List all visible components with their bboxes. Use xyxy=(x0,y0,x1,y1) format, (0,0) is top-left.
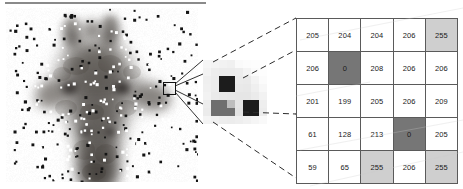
patch-pixel-4-7 xyxy=(259,92,267,100)
pixel-value-cell-4-4: 255 xyxy=(425,151,457,184)
patch-pixel-1-6 xyxy=(251,68,259,76)
pixel-value-cell-1-2: 208 xyxy=(361,52,393,85)
patch-pixel-1-2 xyxy=(219,68,227,76)
patch-pixel-2-0 xyxy=(203,76,211,84)
giraffe-photo-canvas xyxy=(6,8,198,182)
table-row: 2060208206206 xyxy=(297,52,458,85)
pixel-value-table-body: 2052042042062552060208206206201199205206… xyxy=(297,19,458,184)
pixel-value-cell-0-1: 204 xyxy=(329,19,361,52)
patch-pixel-1-4 xyxy=(235,68,243,76)
pixel-value-cell-3-2: 213 xyxy=(361,118,393,151)
patch-pixel-7-0 xyxy=(203,116,211,124)
patch-pixel-3-7 xyxy=(259,84,267,92)
patch-pixel-7-2 xyxy=(219,116,227,124)
patch-pixel-6-0 xyxy=(203,108,211,116)
patch-pixel-5-0 xyxy=(203,100,211,108)
patch-pixel-6-4 xyxy=(235,108,243,116)
pixel-value-cell-0-2: 204 xyxy=(361,19,393,52)
patch-pixel-2-1 xyxy=(211,76,219,84)
patch-pixel-4-4 xyxy=(235,92,243,100)
magnified-pixel-patch xyxy=(203,60,267,124)
pixel-value-cell-3-0: 61 xyxy=(297,118,329,151)
pixel-value-cell-3-3: 0 xyxy=(393,118,425,151)
roi-selection-box[interactable] xyxy=(163,82,176,95)
patch-pixel-4-1 xyxy=(211,92,219,100)
pixel-value-cell-3-4: 205 xyxy=(425,118,457,151)
patch-pixel-1-1 xyxy=(211,68,219,76)
patch-pixel-2-2 xyxy=(219,76,227,84)
table-row: 201199205206209 xyxy=(297,85,458,118)
patch-pixel-3-1 xyxy=(211,84,219,92)
patch-pixel-0-4 xyxy=(235,60,243,68)
patch-pixel-6-2 xyxy=(219,108,227,116)
pixel-value-cell-1-0: 206 xyxy=(297,52,329,85)
patch-pixel-1-7 xyxy=(259,68,267,76)
pixel-value-cell-2-2: 205 xyxy=(361,85,393,118)
pixel-value-cell-4-1: 65 xyxy=(329,151,361,184)
patch-pixel-3-5 xyxy=(243,84,251,92)
pixel-value-cell-1-1: 0 xyxy=(329,52,361,85)
table-row: 205204204206255 xyxy=(297,19,458,52)
patch-pixel-5-7 xyxy=(259,100,267,108)
patch-pixel-1-3 xyxy=(227,68,235,76)
pixel-value-cell-0-3: 206 xyxy=(393,19,425,52)
patch-pixel-5-5 xyxy=(243,100,251,108)
patch-pixel-4-0 xyxy=(203,92,211,100)
patch-pixel-7-5 xyxy=(243,116,251,124)
pixel-value-cell-2-3: 206 xyxy=(393,85,425,118)
patch-pixel-6-7 xyxy=(259,108,267,116)
patch-pixel-2-4 xyxy=(235,76,243,84)
pixel-value-cell-2-1: 199 xyxy=(329,85,361,118)
patch-pixel-0-5 xyxy=(243,60,251,68)
top-divider-rule xyxy=(5,2,206,4)
patch-pixel-5-3 xyxy=(227,100,235,108)
patch-pixel-6-1 xyxy=(211,108,219,116)
patch-pixel-2-5 xyxy=(243,76,251,84)
patch-pixel-7-7 xyxy=(259,116,267,124)
patch-pixel-6-5 xyxy=(243,108,251,116)
pixel-value-cell-2-0: 201 xyxy=(297,85,329,118)
pixel-value-cell-3-1: 128 xyxy=(329,118,361,151)
patch-pixel-0-0 xyxy=(203,60,211,68)
patch-pixel-5-6 xyxy=(251,100,259,108)
pixel-value-cell-0-0: 205 xyxy=(297,19,329,52)
pixel-value-cell-1-4: 206 xyxy=(425,52,457,85)
pixel-value-cell-4-2: 255 xyxy=(361,151,393,184)
patch-pixel-3-3 xyxy=(227,84,235,92)
patch-pixel-0-2 xyxy=(219,60,227,68)
pixel-value-cell-2-4: 209 xyxy=(425,85,457,118)
pixel-value-cell-1-3: 206 xyxy=(393,52,425,85)
pixel-value-cell-4-3: 206 xyxy=(393,151,425,184)
patch-pixel-4-5 xyxy=(243,92,251,100)
patch-pixel-5-2 xyxy=(219,100,227,108)
patch-pixel-0-1 xyxy=(211,60,219,68)
patch-pixel-4-3 xyxy=(227,92,235,100)
pixel-value-cell-0-4: 255 xyxy=(425,19,457,52)
pixel-patch-grid xyxy=(203,60,267,124)
patch-pixel-7-6 xyxy=(251,116,259,124)
pixel-value-table: 2052042042062552060208206206201199205206… xyxy=(296,18,458,184)
patch-pixel-1-5 xyxy=(243,68,251,76)
pixel-value-cell-4-0: 59 xyxy=(297,151,329,184)
patch-pixel-4-2 xyxy=(219,92,227,100)
patch-pixel-0-7 xyxy=(259,60,267,68)
patch-pixel-3-2 xyxy=(219,84,227,92)
table-row: 611282130205 xyxy=(297,118,458,151)
table-row: 5965255206255 xyxy=(297,151,458,184)
noisy-photograph-panel xyxy=(6,8,198,182)
patch-pixel-7-4 xyxy=(235,116,243,124)
figure-root: 2052042042062552060208206206201199205206… xyxy=(0,0,463,189)
patch-pixel-5-4 xyxy=(235,100,243,108)
patch-pixel-5-1 xyxy=(211,100,219,108)
patch-pixel-1-0 xyxy=(203,68,211,76)
patch-pixel-2-7 xyxy=(259,76,267,84)
patch-pixel-3-4 xyxy=(235,84,243,92)
patch-pixel-3-0 xyxy=(203,84,211,92)
patch-pixel-0-3 xyxy=(227,60,235,68)
patch-pixel-2-6 xyxy=(251,76,259,84)
patch-pixel-7-3 xyxy=(227,116,235,124)
patch-pixel-4-6 xyxy=(251,92,259,100)
patch-pixel-0-6 xyxy=(251,60,259,68)
patch-pixel-6-6 xyxy=(251,108,259,116)
patch-pixel-7-1 xyxy=(211,116,219,124)
